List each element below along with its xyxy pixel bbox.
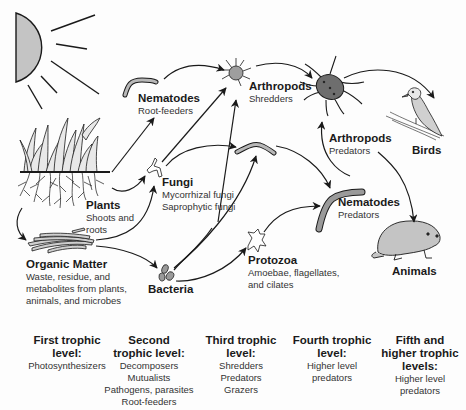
node-title: Birds	[412, 144, 441, 157]
node-subtitle: Shredders	[249, 93, 312, 105]
trophic-level-heading: levels:	[374, 360, 466, 373]
trophic-level-item: Higher level	[284, 360, 380, 372]
trophic-level-3: Third trophic level: Shredders Predators…	[196, 334, 286, 396]
trophic-level-item: Higher level	[374, 373, 466, 385]
trophic-level-item: Pathogens, parasites	[100, 384, 198, 396]
node-subtitle: metabolites from plants,	[26, 283, 127, 295]
node-arthropods-shredders: Arthropods Shredders	[249, 80, 312, 105]
sun-icon	[16, 13, 99, 109]
fungi-hyphae-icon	[147, 158, 162, 177]
node-title: Fungi	[162, 176, 235, 189]
node-subtitle: Predators	[329, 145, 392, 157]
trophic-level-heading: trophic level:	[100, 347, 198, 360]
node-title: Plants	[86, 199, 134, 212]
trophic-level-item: predators	[374, 385, 466, 397]
node-subtitle: Predators	[338, 209, 400, 221]
node-title: Organic Matter	[26, 258, 127, 271]
node-fungi: Fungi Mycorrhizal fungi Saprophytic fung…	[162, 176, 235, 213]
trophic-level-heading: level:	[196, 347, 286, 360]
node-title: Bacteria	[148, 283, 193, 296]
node-protozoa: Protozoa Amoebae, flagellates, and cilat…	[248, 254, 339, 291]
node-bacteria: Bacteria	[148, 283, 193, 296]
node-title: Protozoa	[248, 254, 339, 267]
trophic-level-4: Fourth trophic level: Higher level preda…	[284, 334, 380, 384]
node-title: Animals	[392, 265, 437, 278]
trophic-level-item: Shredders	[196, 360, 286, 372]
trophic-level-2: Second trophic level: Decomposers Mutual…	[100, 334, 198, 408]
node-title: Nematodes	[338, 196, 400, 209]
node-birds: Birds	[412, 144, 441, 157]
node-subtitle: and cilates	[248, 279, 339, 291]
grass-plants-icon	[20, 118, 100, 172]
node-nematodes-root-feeders: Nematodes Root-feeders	[138, 92, 200, 117]
bacteria-icon	[158, 264, 175, 282]
mole-animal-icon	[372, 221, 440, 260]
node-subtitle: animals, and microbes	[26, 295, 127, 307]
node-title: Arthropods	[329, 132, 392, 145]
node-title: Nematodes	[138, 92, 200, 105]
node-subtitle: Shoots and	[86, 212, 134, 224]
node-subtitle: Waste, residue, and	[26, 271, 127, 283]
trophic-level-5: Fifth and higher trophic levels: Higher …	[374, 334, 466, 397]
trophic-level-item: predators	[284, 372, 380, 384]
node-plants: Plants Shoots and roots	[86, 199, 134, 236]
node-subtitle: Amoebae, flagellates,	[248, 267, 339, 279]
bird-icon	[386, 88, 444, 140]
node-subtitle: roots	[86, 224, 134, 236]
trophic-level-item: Grazers	[196, 384, 286, 396]
trophic-level-heading: Fourth trophic	[284, 334, 380, 347]
trophic-level-item: Root-feeders	[100, 396, 198, 408]
node-subtitle: Root-feeders	[138, 105, 200, 117]
trophic-level-heading: higher trophic	[374, 347, 466, 360]
trophic-level-item: Predators	[196, 372, 286, 384]
trophic-level-heading: level:	[284, 347, 380, 360]
trophic-level-heading: Second	[100, 334, 198, 347]
organic-matter-icon	[28, 228, 94, 253]
node-organic-matter: Organic Matter Waste, residue, and metab…	[26, 258, 127, 307]
trophic-level-heading: Fifth and	[374, 334, 466, 347]
node-subtitle: Mycorrhizal fungi	[162, 189, 235, 201]
node-nematodes-predators: Nematodes Predators	[338, 196, 400, 221]
node-animals: Animals	[392, 265, 437, 278]
node-title: Arthropods	[249, 80, 312, 93]
trophic-level-heading: Third trophic	[196, 334, 286, 347]
protozoa-icon	[248, 229, 266, 252]
mite-icon	[222, 58, 251, 86]
trophic-level-item: Decomposers	[100, 360, 198, 372]
node-arthropods-predators: Arthropods Predators	[329, 132, 392, 157]
trophic-level-item: Mutualists	[100, 372, 198, 384]
node-subtitle: Saprophytic fungi	[162, 201, 235, 213]
